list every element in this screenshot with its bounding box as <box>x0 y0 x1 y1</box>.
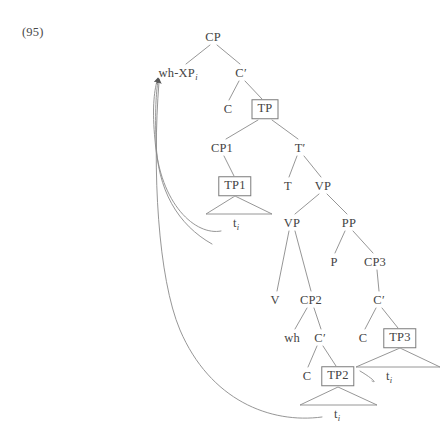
tree-node-label-text: CP2 <box>300 293 322 307</box>
tree-node-label-text: C <box>303 369 312 383</box>
bar-level-prime: ′ <box>244 66 247 80</box>
tree-node-label-text: C <box>314 331 323 345</box>
index-subscript: i <box>237 221 240 231</box>
index-subscript: i <box>195 71 198 81</box>
tree-node-label-text: V <box>270 293 279 307</box>
tree-node-cp2: CP2 <box>300 294 322 307</box>
tree-branch-cbar2-to-tp2 <box>323 346 336 366</box>
tree-node-label-text: C <box>359 331 368 345</box>
movement-arrow-arrow-from-tp1-trace <box>154 81 221 232</box>
tree-branch-cbar3-to-tp3 <box>382 308 398 328</box>
tree-branch-vp-mid-to-v <box>277 231 289 291</box>
tree-branch-cbar-to-c-top <box>229 81 239 100</box>
tree-branch-cp1-to-tp1 <box>224 156 234 176</box>
tree-node-t: T <box>284 180 292 193</box>
tree-branch-pp-to-cp3 <box>353 231 373 253</box>
tree-branch-tp-to-cp1 <box>226 120 258 139</box>
tree-branch-cp3-to-cbar3 <box>377 270 379 291</box>
tree-node-p: P <box>330 256 337 269</box>
tree-node-cp: CP <box>205 31 221 44</box>
tree-node-tp1: TP1 <box>218 176 251 196</box>
tree-branch-cbar2-to-c-cp2 <box>308 346 317 367</box>
tree-node-label-text: PP <box>342 216 356 230</box>
tree-node-t-tp1: ti <box>233 217 239 230</box>
tree-node-label-text: T <box>295 141 303 155</box>
tree-branch-cp2-to-cbar2 <box>314 308 321 329</box>
tree-node-label-text: P <box>330 255 337 269</box>
tree-branch-tp-to-tbar <box>272 120 298 139</box>
syntax-tree-figure: (95) CPwh-XPiC′CTPCP1T′TP1TVPtiVPPPPCP3V… <box>0 0 448 439</box>
tree-branch-cp2-to-wh <box>295 308 307 329</box>
tree-branch-vp-top-to-pp <box>327 194 347 214</box>
tree-node-c-cp3: C <box>359 332 368 345</box>
tree-node-tp3: TP3 <box>383 328 416 348</box>
tree-node-label-text: TP2 <box>327 368 348 382</box>
tree-node-wh: wh <box>284 332 300 345</box>
tree-branch-cp-to-whxp <box>186 45 210 64</box>
tree-branch-tbar-to-vp-top <box>304 156 321 177</box>
tree-node-label-text: VP <box>284 216 300 230</box>
tree-node-cbar: C′ <box>235 67 246 80</box>
tree-node-label-text: CP1 <box>211 141 233 155</box>
tree-node-cbar2: C′ <box>314 332 325 345</box>
elision-triangle-tp2 <box>300 387 377 405</box>
bar-level-prime: ′ <box>303 141 306 155</box>
elision-triangle-tp3 <box>356 348 440 367</box>
tree-node-label-text: C <box>224 102 233 116</box>
movement-arrow-arrow-from-tp2-trace-region <box>156 81 212 244</box>
tree-node-cbar3: C′ <box>373 294 384 307</box>
elision-triangle-tp1 <box>206 196 272 214</box>
index-subscript: i <box>390 374 393 384</box>
movement-arrow-arrow-from-bottom-trace <box>156 82 322 418</box>
tree-node-label-text: C <box>235 66 244 80</box>
tree-node-c-cp2: C <box>303 370 312 383</box>
tree-node-label-text: C <box>373 293 382 307</box>
tree-node-label-text: TP <box>258 101 273 115</box>
tree-node-label-text: wh-XP <box>159 66 195 80</box>
tree-node-label-text: TP1 <box>224 178 245 192</box>
tree-node-whxp: wh-XPi <box>159 67 198 80</box>
tree-node-vp-top: VP <box>315 180 331 193</box>
tree-node-t-tp3: ti <box>386 370 392 383</box>
tree-node-label-text: wh <box>284 331 300 345</box>
bar-level-prime: ′ <box>323 331 326 345</box>
tree-branch-cbar3-to-c-cp3 <box>365 308 376 329</box>
tree-node-tp2: TP2 <box>321 366 354 386</box>
tree-branch-lines <box>0 0 448 439</box>
bar-level-prime: ′ <box>382 293 385 307</box>
tree-node-cp1: CP1 <box>211 142 233 155</box>
tree-node-label-text: TP3 <box>389 330 410 344</box>
tree-node-tp: TP <box>252 99 279 119</box>
tree-branch-pp-to-p <box>335 231 345 253</box>
tree-branch-vp-top-to-vp-mid <box>295 194 319 214</box>
tree-node-cp3: CP3 <box>364 256 386 269</box>
tree-node-label-text: CP <box>205 30 221 44</box>
tree-node-t-tp2: ti <box>334 408 340 421</box>
tree-node-vp-mid: VP <box>284 217 300 230</box>
tree-branch-tbar-to-t <box>289 156 297 177</box>
tree-branch-cbar-to-tp <box>245 81 262 99</box>
tree-node-v: V <box>270 294 279 307</box>
tree-node-label-text: CP3 <box>364 255 386 269</box>
tree-node-pp: PP <box>342 217 356 230</box>
index-subscript: i <box>338 412 341 422</box>
tree-branch-vp-mid-to-cp2 <box>295 231 311 291</box>
movement-arrow-link-tp2-to-tp3-trace <box>360 371 374 382</box>
tree-node-label-text: VP <box>315 179 331 193</box>
tree-branch-cp-to-cbar <box>217 45 240 64</box>
tree-node-tbar: T′ <box>295 142 306 155</box>
tree-node-label-text: T <box>284 179 292 193</box>
tree-node-c-top: C <box>224 103 233 116</box>
